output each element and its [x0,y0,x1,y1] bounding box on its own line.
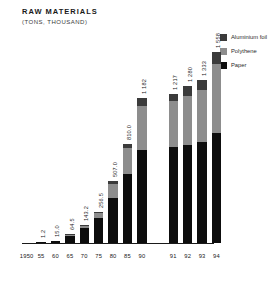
bar-stack[interactable] [212,52,221,243]
x-axis-ticks: 1950556065707580859091929394 [22,244,214,266]
bar-stack[interactable] [183,86,192,243]
bar-segment-polythene [212,64,221,133]
bar-segment-paper [80,228,89,243]
bar-segment-polythene [183,96,192,145]
bar-stack[interactable] [108,181,117,243]
bar-segment-paper [197,142,206,243]
legend-item-label: Paper [231,62,246,69]
bar-segment-aluminium-foil [212,52,221,64]
legend-item[interactable]: Aluminium foil [220,31,267,43]
bar-value-label: 64.5 [69,218,75,230]
bar-value-label: 1 280 [187,67,193,82]
bar-stack[interactable] [137,98,146,243]
bar-value-label: 15.0 [55,225,61,237]
bar-segment-polythene [169,101,178,147]
bar-slot: 1 558 [212,52,221,243]
chart-legend: Aluminium foilPolythenePaper [220,31,267,73]
legend-item[interactable]: Paper [220,59,267,71]
x-axis-tick-60: 60 [49,253,63,259]
bar-segment-polythene [137,106,146,150]
bar-value-label: 1 333 [201,61,207,76]
bar-slot: 1 217 [169,94,178,243]
bar-value-label: 143.2 [83,206,89,221]
bar-segment-paper [108,198,117,243]
x-axis-tick-90: 90 [135,253,149,259]
bar-value-label: 1 558 [216,33,222,48]
bar-stack[interactable] [65,234,74,243]
bar-value-label: 1 182 [141,79,147,94]
x-axis-tick-55: 55 [34,253,48,259]
x-axis-tick-93: 93 [195,253,209,259]
raw-materials-chart: RAW MATERIALS (TONS, THOUSAND) Aluminium… [0,0,278,296]
bar-segment-paper [137,150,146,243]
bar-segment-polythene [123,148,132,174]
bar-segment-paper [183,145,192,243]
bar-value-label: 256.5 [98,193,104,208]
bar-segment-aluminium-foil [137,98,146,106]
plot-area: 1.215.064.5143.2256.5507.0810.01 1821 21… [22,18,214,266]
legend-item[interactable]: Polythene [220,45,267,57]
bar-value-label: 507.0 [112,162,118,177]
bar-slot: 256.5 [94,212,103,243]
bar-segment-paper [123,174,132,243]
bar-segment-paper [65,236,74,243]
legend-item-label: Polythene [231,48,257,55]
bar-stack[interactable] [169,94,178,243]
bar-segment-paper [212,133,221,243]
bar-slot: 810.0 [123,144,132,243]
x-axis-tick-92: 92 [181,253,195,259]
x-axis-tick-91: 91 [166,253,180,259]
x-axis-tick-85: 85 [121,253,135,259]
bar-stack[interactable] [123,144,132,243]
bar-stack[interactable] [94,212,103,243]
bar-stack[interactable] [197,80,206,243]
bar-segment-paper [169,147,178,243]
bars-layer: 1.215.064.5143.2256.5507.0810.01 1821 21… [22,18,214,243]
bar-slot: 143.2 [80,225,89,243]
legend-item-label: Aluminium foil [231,34,267,41]
bar-segment-aluminium-foil [197,80,206,90]
x-axis-tick-94: 94 [210,253,224,259]
bar-segment-paper [94,218,103,243]
x-axis-tick-70: 70 [77,253,91,259]
bar-segment-polythene [197,90,206,143]
bar-slot: 1 333 [197,80,206,243]
bar-value-label: 810.0 [127,125,133,140]
x-axis-tick-80: 80 [106,253,120,259]
x-axis-tick-65: 65 [63,253,77,259]
bar-slot: 64.5 [65,234,74,243]
x-axis-tick-75: 75 [92,253,106,259]
bar-segment-polythene [108,184,117,198]
bar-segment-aluminium-foil [183,86,192,96]
bar-segment-aluminium-foil [169,94,178,102]
bar-slot: 1 182 [137,98,146,243]
bar-slot: 1 280 [183,86,192,243]
bar-stack[interactable] [80,225,89,243]
bar-value-label: 1 217 [172,75,178,90]
bar-value-label: 1.2 [40,230,46,238]
page-title: RAW MATERIALS [22,7,98,17]
bar-slot: 507.0 [108,181,117,243]
